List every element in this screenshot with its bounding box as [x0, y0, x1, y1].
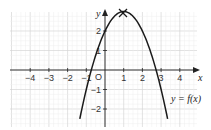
- x-axis-label: x: [197, 72, 203, 83]
- grid: [10, 12, 197, 127]
- x-tick-label: −4: [25, 73, 35, 83]
- y-tick-label: −1: [91, 85, 101, 95]
- x-tick-label: −2: [62, 73, 72, 83]
- x-tick-label: −3: [44, 73, 54, 83]
- origin-label: O: [95, 72, 102, 82]
- y-axis-label: y: [95, 8, 101, 19]
- x-tick-label: 4: [177, 73, 182, 83]
- chart-canvas: −4−3−2−1123421−1−2 x y O y = f(x): [0, 0, 211, 130]
- y-axis-arrow-icon: [102, 9, 108, 16]
- y-tick-label: 2: [96, 26, 101, 36]
- x-tick-label: 2: [140, 73, 145, 83]
- y-tick-label: −2: [91, 104, 101, 114]
- curve-label: y = f(x): [170, 93, 202, 105]
- x-tick-label: 1: [121, 73, 126, 83]
